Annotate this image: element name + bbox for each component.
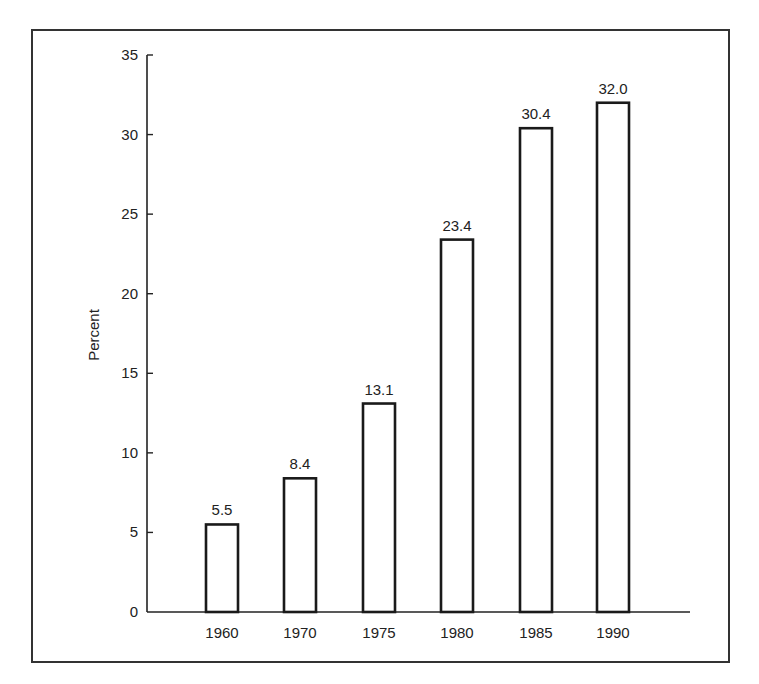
bar-value-label: 8.4 [290, 455, 311, 472]
bar-1985: 30.41985 [519, 105, 552, 641]
bar-1990: 32.01990 [596, 80, 629, 641]
x-tick-label: 1960 [205, 624, 238, 641]
y-tick-label: 30 [121, 126, 138, 143]
bar-rect [441, 240, 473, 612]
bar-rect [284, 478, 316, 612]
bar-value-label: 23.4 [442, 217, 471, 234]
y-tick-label: 0 [130, 603, 138, 620]
bar-chart: 05101520253035 5.519608.4197013.1197523.… [0, 0, 759, 684]
bar-rect [363, 404, 395, 612]
bar-1960: 5.51960 [205, 501, 238, 641]
bars: 5.519608.4197013.1197523.4198030.4198532… [205, 80, 629, 641]
y-tick-label: 10 [121, 444, 138, 461]
x-tick-label: 1985 [519, 624, 552, 641]
x-tick-label: 1980 [440, 624, 473, 641]
y-tick-label: 35 [121, 46, 138, 63]
bar-rect [206, 524, 238, 612]
bar-rect [520, 128, 552, 612]
y-axis: 05101520253035 [121, 46, 153, 620]
bar-1970: 8.41970 [283, 455, 316, 641]
x-tick-label: 1975 [362, 624, 395, 641]
bar-value-label: 32.0 [598, 80, 627, 97]
x-tick-label: 1990 [596, 624, 629, 641]
y-tick-label: 15 [121, 364, 138, 381]
bar-value-label: 13.1 [364, 381, 393, 398]
bar-rect [597, 103, 629, 612]
y-tick-label: 5 [130, 523, 138, 540]
bar-value-label: 30.4 [521, 105, 550, 122]
bar-1980: 23.41980 [440, 217, 473, 641]
bar-1975: 13.11975 [362, 381, 395, 641]
x-tick-label: 1970 [283, 624, 316, 641]
bar-value-label: 5.5 [212, 501, 233, 518]
y-axis-label: Percent [85, 308, 102, 361]
y-tick-label: 25 [121, 205, 138, 222]
y-tick-label: 20 [121, 285, 138, 302]
